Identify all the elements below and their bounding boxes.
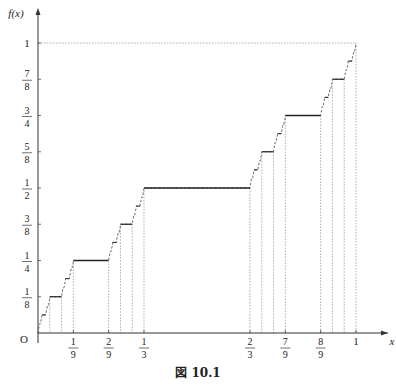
x-tick-label-num: 2 bbox=[248, 336, 253, 347]
x-tick-label-den: 9 bbox=[318, 349, 323, 360]
x-tick-label-den: 9 bbox=[106, 349, 111, 360]
x-tick-label: 1 bbox=[353, 335, 359, 347]
figure-caption: 図 10.1 bbox=[0, 363, 396, 380]
origin-label: O bbox=[20, 333, 28, 345]
x-tick-label-num: 1 bbox=[71, 336, 76, 347]
y-axis-label: f(x) bbox=[8, 7, 24, 20]
y-tick-label-num: 1 bbox=[25, 250, 30, 261]
x-tick-label-num: 7 bbox=[283, 336, 288, 347]
y-tick-label-num: 7 bbox=[25, 68, 30, 79]
cantor-function-chart: f(x)xO1814381258347811929132379891 bbox=[0, 0, 396, 391]
y-tick-label-den: 2 bbox=[25, 190, 30, 201]
y-tick-label-num: 1 bbox=[25, 286, 30, 297]
x-axis-arrow-icon bbox=[381, 331, 388, 336]
y-tick-label-num: 5 bbox=[25, 141, 30, 152]
x-tick-label-num: 2 bbox=[106, 336, 111, 347]
x-tick-label-num: 1 bbox=[141, 336, 146, 347]
y-tick-label-den: 8 bbox=[25, 226, 30, 237]
y-tick-label-den: 4 bbox=[25, 263, 30, 274]
x-tick-label-den: 3 bbox=[248, 349, 253, 360]
y-tick-label-num: 1 bbox=[25, 177, 30, 188]
x-axis-label: x bbox=[389, 335, 395, 347]
y-tick-label: 1 bbox=[24, 37, 30, 49]
y-tick-label-num: 3 bbox=[25, 213, 30, 224]
y-tick-label-num: 3 bbox=[25, 105, 30, 116]
x-tick-label-den: 9 bbox=[71, 349, 76, 360]
x-tick-label-num: 8 bbox=[318, 336, 323, 347]
y-tick-label-den: 8 bbox=[25, 299, 30, 310]
x-tick-label-den: 9 bbox=[283, 349, 288, 360]
y-tick-label-den: 4 bbox=[25, 118, 30, 129]
y-tick-label-den: 8 bbox=[25, 81, 30, 92]
x-tick-label-den: 3 bbox=[141, 349, 146, 360]
y-axis-arrow-icon bbox=[36, 8, 41, 15]
y-tick-label-den: 8 bbox=[25, 154, 30, 165]
